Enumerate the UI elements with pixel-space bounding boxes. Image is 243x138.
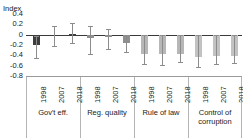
y-tick-0neg2: 0.2 <box>0 20 23 28</box>
error-bar-cap-lower <box>124 52 129 53</box>
bar-group <box>26 14 80 76</box>
error-bar <box>162 35 163 64</box>
error-bar-cap-upper <box>214 35 219 36</box>
error-bar <box>72 23 73 44</box>
bar-group <box>80 14 134 76</box>
plot-area <box>26 14 242 76</box>
x-axis-category-label: Gov't eff. <box>26 108 80 117</box>
error-bar-cap-upper <box>160 35 165 36</box>
error-bar <box>216 35 217 64</box>
x-tick-year: 2018 <box>238 86 243 103</box>
error-bar-cap-lower <box>142 64 147 65</box>
y-tick-0: 0 <box>0 31 23 39</box>
bar-group <box>188 14 242 76</box>
error-bar-cap-lower <box>196 67 201 68</box>
error-bar <box>234 35 235 63</box>
error-bar-cap-upper <box>196 35 201 36</box>
x-tick-year: 2018 <box>76 86 84 103</box>
error-bar <box>36 36 37 58</box>
error-bar-cap-lower <box>106 49 111 50</box>
error-bar <box>108 29 109 49</box>
error-bar <box>180 35 181 61</box>
error-bar-cap-lower <box>214 64 219 65</box>
x-tick-year: 2007 <box>112 86 120 103</box>
error-bar-cap-lower <box>52 46 57 47</box>
x-tick-year: 2018 <box>184 86 192 103</box>
error-bar-cap-lower <box>178 62 183 63</box>
y-tick-neg0-4: -0.4 <box>0 51 23 59</box>
x-tick-year: 2007 <box>58 86 66 103</box>
error-bar-cap-upper <box>178 35 183 36</box>
error-bar-cap-upper <box>70 23 75 24</box>
x-axis-area: 1998200720181998200720181998200720181998… <box>26 76 242 138</box>
error-bar-cap-lower <box>88 54 93 55</box>
error-bar-cap-upper <box>106 29 111 30</box>
x-tick-year: 2007 <box>166 86 174 103</box>
error-bar-cap-lower <box>232 63 237 64</box>
x-tick-year: 1998 <box>40 86 48 103</box>
y-tick-neg0-2: -0.2 <box>0 41 23 49</box>
x-tick-year: 1998 <box>148 86 156 103</box>
bar-group <box>134 14 188 76</box>
bar-chart: Index 0.40.20-0.2-0.4-0.6-0.8 1998200720… <box>0 0 243 138</box>
error-bar <box>54 26 55 46</box>
x-tick-year: 2007 <box>220 86 228 103</box>
x-tick-year: 2018 <box>130 86 138 103</box>
error-bar-cap-upper <box>88 26 93 27</box>
error-bar-cap-upper <box>124 35 129 36</box>
error-bar-cap-upper <box>142 35 147 36</box>
error-bar-cap-upper <box>34 36 39 37</box>
y-tick-neg0-6: -0.6 <box>0 62 23 70</box>
error-bar-cap-lower <box>70 43 75 44</box>
x-tick-year: 1998 <box>94 86 102 103</box>
error-bar-cap-upper <box>232 35 237 36</box>
x-tick-year: 1998 <box>202 86 210 103</box>
error-bar-cap-upper <box>52 26 57 27</box>
y-tick-neg0-8: -0.8 <box>0 72 23 80</box>
x-axis-category-label: Reg. quality <box>80 108 134 117</box>
error-bar-cap-lower <box>34 58 39 59</box>
y-tick-0neg4: 0.4 <box>0 10 23 18</box>
error-bar <box>90 26 91 54</box>
error-bar <box>198 35 199 67</box>
error-bar <box>126 35 127 52</box>
x-axis-category-label: Rule of law <box>134 108 188 117</box>
error-bar-cap-lower <box>160 65 165 66</box>
x-axis-category-label: Control of corruption <box>188 108 242 126</box>
error-bar <box>144 35 145 63</box>
